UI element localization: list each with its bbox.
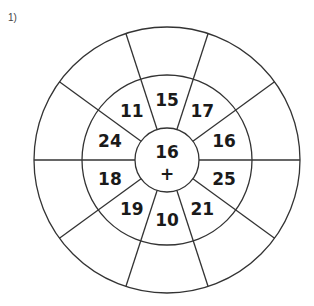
- math-wheel: 15171625211019182411 16 +: [0, 0, 314, 306]
- ring-number: 21: [190, 199, 214, 219]
- ring-number: 16: [212, 131, 236, 151]
- ring-number: 11: [120, 101, 144, 121]
- ring-number: 18: [98, 169, 122, 189]
- ring-number: 19: [120, 199, 144, 219]
- ring-number: 24: [98, 131, 122, 151]
- center-operator: +: [160, 164, 174, 184]
- ring-number: 17: [190, 101, 214, 121]
- ring-number: 25: [212, 169, 236, 189]
- center-number: 16: [155, 142, 179, 162]
- ring-number: 15: [155, 90, 179, 110]
- ring-number: 10: [155, 210, 179, 230]
